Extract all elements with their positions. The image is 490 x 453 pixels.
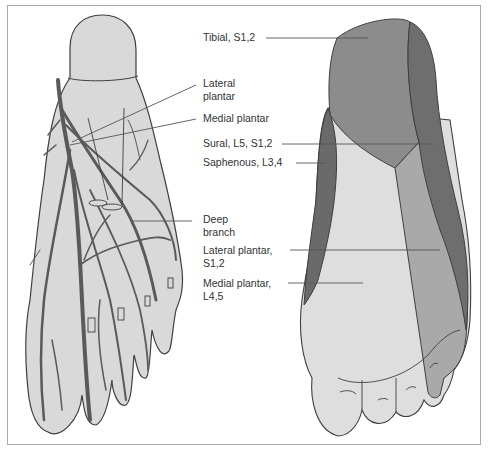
label-line: Saphenous, L3,4: [203, 156, 282, 169]
label-line: Deep: [203, 213, 235, 226]
right-foot-dermatome-illustration: [266, 19, 471, 436]
left-foot-nerve-illustration: [26, 15, 196, 434]
label-line: Medial plantar,: [203, 277, 271, 290]
label-line: branch: [203, 226, 235, 239]
label-line: Lateral: [203, 77, 235, 90]
label-medial-plantar: Medial plantar: [203, 112, 269, 125]
label-sural: Sural, L5, S1,2: [203, 137, 272, 150]
label-line: Medial plantar: [203, 112, 269, 125]
label-line: Tibial, S1,2: [203, 31, 255, 44]
label-line: plantar: [203, 90, 235, 103]
label-line: Lateral plantar,: [203, 244, 272, 257]
label-saphenous: Saphenous, L3,4: [203, 156, 282, 169]
label-tibial: Tibial, S1,2: [203, 31, 255, 44]
label-line: Sural, L5, S1,2: [203, 137, 272, 150]
label-line: L4,5: [203, 290, 271, 303]
label-deep-branch: Deep branch: [203, 213, 235, 239]
label-line: S1,2: [203, 257, 272, 270]
label-lateral-plantar-dermatome: Lateral plantar, S1,2: [203, 244, 272, 270]
label-medial-plantar-dermatome: Medial plantar, L4,5: [203, 277, 271, 303]
left-foot-outline: [26, 15, 183, 434]
label-lateral-plantar: Lateral plantar: [203, 77, 235, 103]
foot-illustrations: [0, 0, 490, 453]
